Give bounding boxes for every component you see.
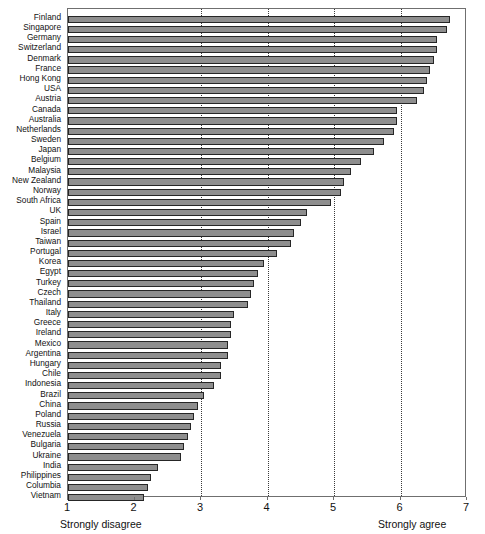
bar-russia: [68, 423, 191, 430]
bar-bulgaria: [68, 443, 184, 450]
category-label-india: India: [43, 461, 61, 470]
category-label-france: France: [35, 64, 61, 73]
category-label-thailand: Thailand: [29, 298, 61, 307]
category-label-chile: Chile: [42, 369, 61, 378]
bar-row: [68, 371, 465, 381]
bar-row: [68, 55, 465, 65]
axis-caption-strongly-agree: Strongly agree: [378, 518, 446, 530]
bar-row: [68, 65, 465, 75]
bar-south-africa: [68, 199, 331, 206]
category-label-uk: UK: [49, 206, 61, 215]
bar-row: [68, 442, 465, 452]
bar-row: [68, 279, 465, 289]
bar-row: [68, 238, 465, 248]
xtick-label-2: 2: [130, 501, 136, 514]
bar-row: [68, 76, 465, 86]
value-axis-ticks: 1234567: [0, 497, 485, 517]
bar-egypt: [68, 270, 258, 277]
bar-korea: [68, 260, 264, 267]
category-label-ukraine: Ukraine: [32, 451, 61, 460]
bar-row: [68, 137, 465, 147]
bar-row: [68, 422, 465, 432]
bar-portugal: [68, 250, 277, 257]
bar-row: [68, 198, 465, 208]
bar-argentina: [68, 352, 228, 359]
bar-usa: [68, 87, 424, 94]
category-label-mexico: Mexico: [35, 339, 61, 348]
bar-chile: [68, 372, 221, 379]
bars-layer: [68, 9, 465, 496]
category-label-hungary: Hungary: [30, 359, 61, 368]
bar-turkey: [68, 280, 254, 287]
bar-india: [68, 464, 158, 471]
bar-row: [68, 432, 465, 442]
category-label-norway: Norway: [33, 186, 61, 195]
bar-hungary: [68, 362, 221, 369]
bar-ireland: [68, 331, 231, 338]
bar-row: [68, 218, 465, 228]
bar-row: [68, 320, 465, 330]
bar-taiwan: [68, 240, 291, 247]
bar-netherlands: [68, 128, 394, 135]
category-label-hong-kong: Hong Kong: [19, 74, 61, 83]
category-label-ireland: Ireland: [36, 328, 61, 337]
category-label-usa: USA: [44, 84, 61, 93]
bar-row: [68, 96, 465, 106]
bar-row: [68, 350, 465, 360]
category-label-venezuela: Venezuela: [22, 430, 61, 439]
bar-new-zealand: [68, 178, 344, 185]
category-label-germany: Germany: [27, 33, 61, 42]
category-label-austria: Austria: [35, 94, 61, 103]
bar-sweden: [68, 138, 384, 145]
bar-row: [68, 391, 465, 401]
category-label-new-zealand: New Zealand: [12, 176, 61, 185]
bar-row: [68, 116, 465, 126]
category-label-argentina: Argentina: [25, 349, 61, 358]
survey-bar-chart: FinlandSingaporeGermanySwitzerlandDenmar…: [0, 0, 485, 534]
category-label-denmark: Denmark: [27, 54, 61, 63]
bar-row: [68, 300, 465, 310]
bar-indonesia: [68, 382, 214, 389]
bar-czech: [68, 290, 251, 297]
bar-row: [68, 45, 465, 55]
category-label-sweden: Sweden: [31, 135, 61, 144]
bar-austria: [68, 97, 417, 104]
bar-italy: [68, 311, 234, 318]
bar-row: [68, 361, 465, 371]
bar-canada: [68, 107, 397, 114]
xtick-mark-2: [134, 497, 135, 500]
category-label-malaysia: Malaysia: [28, 166, 61, 175]
bar-row: [68, 452, 465, 462]
bar-uk: [68, 209, 307, 216]
category-label-singapore: Singapore: [23, 23, 61, 32]
category-label-russia: Russia: [36, 420, 61, 429]
bar-row: [68, 462, 465, 472]
bar-row: [68, 208, 465, 218]
xtick-label-3: 3: [197, 501, 203, 514]
bar-finland: [68, 16, 450, 23]
category-label-korea: Korea: [39, 257, 61, 266]
bar-row: [68, 188, 465, 198]
axis-caption-strongly-disagree: Strongly disagree: [60, 518, 142, 530]
category-label-indonesia: Indonesia: [25, 379, 61, 388]
category-label-finland: Finland: [34, 13, 61, 22]
bar-row: [68, 86, 465, 96]
bar-row: [68, 259, 465, 269]
bar-row: [68, 412, 465, 422]
bar-japan: [68, 148, 374, 155]
category-label-philippines: Philippines: [21, 471, 61, 480]
bar-row: [68, 340, 465, 350]
category-label-china: China: [39, 400, 61, 409]
bar-philippines: [68, 474, 151, 481]
bar-row: [68, 483, 465, 493]
xtick-label-7: 7: [463, 501, 469, 514]
bar-columbia: [68, 484, 148, 491]
bar-ukraine: [68, 453, 181, 460]
bar-row: [68, 15, 465, 25]
bar-row: [68, 25, 465, 35]
bar-row: [68, 177, 465, 187]
bar-denmark: [68, 56, 434, 63]
xtick-label-4: 4: [263, 501, 269, 514]
xtick-mark-6: [400, 497, 401, 500]
bar-malaysia: [68, 168, 351, 175]
